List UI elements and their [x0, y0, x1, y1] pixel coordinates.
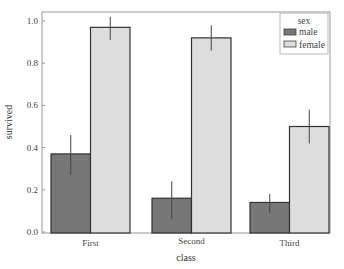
legend: sex male female	[280, 13, 328, 54]
bar-female-first	[91, 27, 131, 233]
y-tick-label: 0.6	[27, 100, 39, 110]
legend-swatch-male	[284, 29, 296, 35]
y-tick-label: 0.8	[27, 58, 39, 68]
x-tick-label: First	[82, 238, 99, 248]
x-axis-label: class	[176, 252, 196, 263]
y-tick-label: 0.0	[27, 227, 39, 237]
y-tick-label: 0.4	[27, 143, 39, 153]
legend-label-female: female	[299, 40, 325, 50]
x-tick-label: Third	[280, 238, 300, 248]
y-axis-label: survived	[3, 105, 14, 139]
x-tick-label: Second	[178, 236, 205, 246]
legend-label-male: male	[299, 27, 317, 37]
bar-chart: 0.00.20.40.60.81.0 FirstSecondThird clas…	[0, 0, 344, 269]
x-axis-ticks: FirstSecondThird	[82, 236, 300, 248]
legend-swatch-female	[284, 41, 296, 47]
bar-female-second	[192, 38, 232, 233]
y-tick-label: 1.0	[27, 16, 39, 26]
legend-title: sex	[298, 16, 311, 26]
y-tick-label: 0.2	[27, 185, 38, 195]
